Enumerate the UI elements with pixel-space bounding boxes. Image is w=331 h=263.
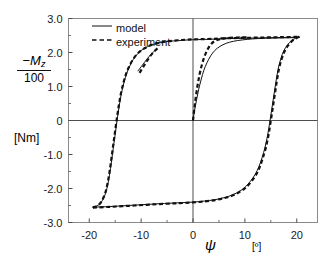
y-axis-unit: [Nm] — [14, 131, 39, 145]
y-axis-label: −Mz 100 — [6, 54, 62, 85]
experiment-descending-branch — [93, 37, 299, 208]
experiment-inner-branch-left — [140, 48, 159, 73]
y-tick-label: 0 — [56, 115, 62, 127]
model-ascending-branch — [93, 37, 299, 207]
y-axis-label-denominator: 100 — [6, 72, 62, 85]
figure-container: 3.02.01.00-1.0-2.0-3.0-20-1001020 −Mz 10… — [0, 0, 331, 263]
model-inner-branch-from-origin — [193, 38, 298, 121]
y-axis-label-numerator: −Mz — [6, 54, 62, 69]
x-axis-label: ψ — [205, 236, 216, 253]
legend-label-model: model — [116, 22, 146, 34]
x-tick-label: -10 — [133, 229, 149, 241]
legend-label-experiment: experiment — [116, 36, 170, 48]
x-tick-label: -20 — [81, 229, 97, 241]
y-tick-label: -3.0 — [44, 217, 63, 229]
x-tick-label: 0 — [190, 229, 196, 241]
x-axis-unit: [º] — [252, 241, 261, 252]
y-tick-label: -1.0 — [44, 149, 63, 161]
x-tick-label: 10 — [239, 229, 251, 241]
model-descending-branch — [93, 37, 299, 207]
y-tick-label: 3.0 — [47, 13, 62, 25]
x-tick-label: 20 — [291, 229, 303, 241]
y-tick-label: -2.0 — [44, 183, 63, 195]
experiment-ascending-branch — [93, 37, 299, 207]
